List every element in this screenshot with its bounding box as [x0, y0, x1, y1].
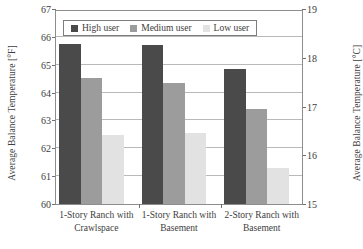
bar	[224, 69, 246, 204]
bar	[267, 168, 289, 204]
category-label-line: 1-Story Ranch with	[55, 209, 138, 222]
y-tick-label-left: 63	[29, 116, 51, 126]
bar	[163, 83, 185, 204]
legend-item[interactable]: High user	[71, 23, 119, 33]
bar-group	[221, 11, 304, 204]
y-tick-label-left: 60	[29, 200, 51, 210]
y-tick-label-left: 66	[29, 33, 51, 43]
x-axis-category-label: 2-Story Ranch withBasement	[220, 209, 303, 247]
bar-group	[139, 11, 222, 204]
bar	[102, 135, 124, 204]
y-axis-right-ticks: 1516171819	[307, 10, 335, 205]
x-axis-separator-tick	[221, 204, 222, 208]
bar-chart: Average Balance Temperature [°F] Average…	[0, 0, 363, 249]
x-axis-separator-tick	[139, 204, 140, 208]
legend-swatch-icon	[71, 25, 78, 32]
category-label-line: 1-Story Ranch with	[138, 209, 221, 222]
category-label-line: 2-Story Ranch with	[220, 209, 303, 222]
y-axis-right-title: Average Balance Temperature [°C]	[352, 28, 362, 198]
y-tick-label-right: 16	[307, 151, 329, 161]
bar	[59, 44, 81, 204]
chart-legend: High userMedium userLow user	[63, 20, 257, 36]
legend-label: High user	[82, 23, 119, 33]
y-tick-label-left: 64	[29, 89, 51, 99]
x-axis-category-label: 1-Story Ranch withCrawlspace	[55, 209, 138, 247]
plot-area	[55, 10, 303, 205]
y-tick-label-right: 15	[307, 200, 329, 210]
category-label-line: Basement	[138, 222, 221, 235]
y-axis-left-title: Average Balance Temperature [°F]	[7, 28, 17, 198]
bar	[142, 45, 164, 204]
y-tick-label-left: 65	[29, 61, 51, 71]
y-tick-label-right: 17	[307, 103, 329, 113]
y-axis-left-ticks: 6061626364656667	[23, 10, 51, 205]
legend-item[interactable]: Low user	[203, 23, 250, 33]
legend-swatch-icon	[130, 25, 137, 32]
bar	[81, 78, 103, 204]
y-tick-label-right: 18	[307, 54, 329, 64]
y-tick-label-left: 62	[29, 144, 51, 154]
legend-swatch-icon	[203, 25, 210, 32]
legend-label: Low user	[214, 23, 250, 33]
x-axis-category-labels: 1-Story Ranch withCrawlspace1-Story Ranc…	[55, 209, 303, 247]
legend-label: Medium user	[141, 23, 191, 33]
x-axis-category-label: 1-Story Ranch withBasement	[138, 209, 221, 247]
bar	[246, 109, 268, 204]
category-label-line: Crawlspace	[55, 222, 138, 235]
y-tick-label-left: 61	[29, 172, 51, 182]
bar-group	[56, 11, 139, 204]
y-tick-label-left: 67	[29, 5, 51, 15]
y-tick-label-right: 19	[307, 5, 329, 15]
category-label-line: Basement	[220, 222, 303, 235]
bar	[185, 133, 207, 204]
legend-item[interactable]: Medium user	[130, 23, 191, 33]
